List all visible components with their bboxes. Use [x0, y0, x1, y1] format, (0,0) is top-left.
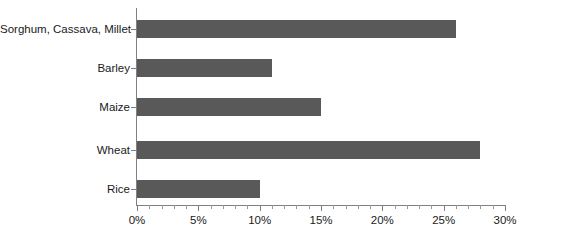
x-tick-minor — [456, 205, 457, 209]
x-tick-minor — [395, 205, 396, 209]
x-tick-label: 30% — [485, 213, 525, 227]
x-tick-major — [260, 205, 261, 211]
bar — [137, 180, 260, 198]
x-tick-minor — [480, 205, 481, 209]
x-tick-major — [198, 205, 199, 211]
x-tick-major — [505, 205, 506, 211]
category-tick — [131, 107, 137, 108]
x-tick-minor — [346, 205, 347, 209]
x-tick-label: 10% — [240, 213, 280, 227]
x-tick-major — [137, 205, 138, 211]
x-tick-major — [321, 205, 322, 211]
x-tick-minor — [186, 205, 187, 209]
horizontal-bar-chart: Sorghum, Cassava, MilletBarleyMaizeWheat… — [0, 0, 571, 237]
bar — [137, 98, 321, 116]
x-tick-minor — [419, 205, 420, 209]
x-tick-minor — [468, 205, 469, 209]
x-tick-minor — [309, 205, 310, 209]
x-tick-label: 0% — [117, 213, 157, 227]
x-tick-minor — [333, 205, 334, 209]
category-label: Maize — [0, 98, 130, 116]
x-tick-minor — [493, 205, 494, 209]
x-tick-label: 5% — [178, 213, 218, 227]
x-tick-label: 20% — [362, 213, 402, 227]
x-tick-minor — [284, 205, 285, 209]
x-tick-minor — [223, 205, 224, 209]
category-tick — [131, 68, 137, 69]
category-tick — [131, 189, 137, 190]
x-tick-minor — [211, 205, 212, 209]
bar — [137, 59, 272, 77]
x-tick-minor — [272, 205, 273, 209]
x-tick-minor — [370, 205, 371, 209]
category-label: Wheat — [0, 141, 130, 159]
x-tick-minor — [247, 205, 248, 209]
category-label: Sorghum, Cassava, Millet — [0, 20, 130, 38]
category-tick — [131, 150, 137, 151]
category-label: Barley — [0, 59, 130, 77]
x-tick-minor — [149, 205, 150, 209]
x-tick-label: 25% — [424, 213, 464, 227]
x-tick-minor — [162, 205, 163, 209]
x-tick-minor — [407, 205, 408, 209]
x-tick-major — [444, 205, 445, 211]
bar — [137, 141, 480, 159]
category-label: Rice — [0, 180, 130, 198]
x-tick-major — [382, 205, 383, 211]
x-tick-minor — [235, 205, 236, 209]
x-tick-minor — [174, 205, 175, 209]
x-tick-minor — [431, 205, 432, 209]
x-tick-label: 15% — [301, 213, 341, 227]
category-tick — [131, 29, 137, 30]
x-tick-minor — [296, 205, 297, 209]
bar — [137, 20, 456, 38]
x-tick-minor — [358, 205, 359, 209]
